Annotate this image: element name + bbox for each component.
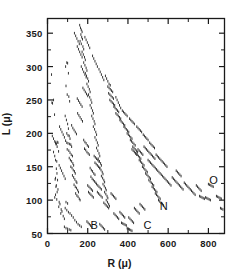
x-tick-label: 0 (45, 238, 50, 249)
axis-ticks (48, 19, 225, 234)
annotation-b: B (90, 219, 97, 231)
y-tick-label: 100 (26, 195, 42, 206)
annotation-n: N (160, 200, 168, 212)
y-tick-label: 150 (26, 161, 42, 172)
x-axis-title: R (μ) (0, 257, 239, 269)
y-tick-label: 250 (26, 94, 42, 105)
x-tick-label: 400 (120, 238, 136, 249)
y-tick-label: 350 (26, 28, 42, 39)
y-tick-label: 200 (26, 128, 42, 139)
x-tick-label: 600 (160, 238, 176, 249)
y-tick-label: 300 (26, 61, 42, 72)
data-points (52, 24, 223, 232)
x-tick-label: 200 (79, 238, 95, 249)
y-axis-title: L (μ) (0, 101, 12, 147)
scatter-plot-figure: 50100150200250300350 0200400600800 BCNO … (0, 0, 239, 273)
annotation-c: C (143, 219, 151, 231)
axes-frame (48, 19, 225, 234)
annotation-o: O (209, 174, 218, 186)
x-tick-label: 800 (200, 238, 216, 249)
y-tick-label: 50 (32, 228, 43, 239)
